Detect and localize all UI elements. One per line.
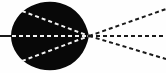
- ray-diagram-canvas: [0, 0, 166, 73]
- convergence-point: [88, 35, 91, 38]
- ray-diagram-figure: [0, 0, 166, 73]
